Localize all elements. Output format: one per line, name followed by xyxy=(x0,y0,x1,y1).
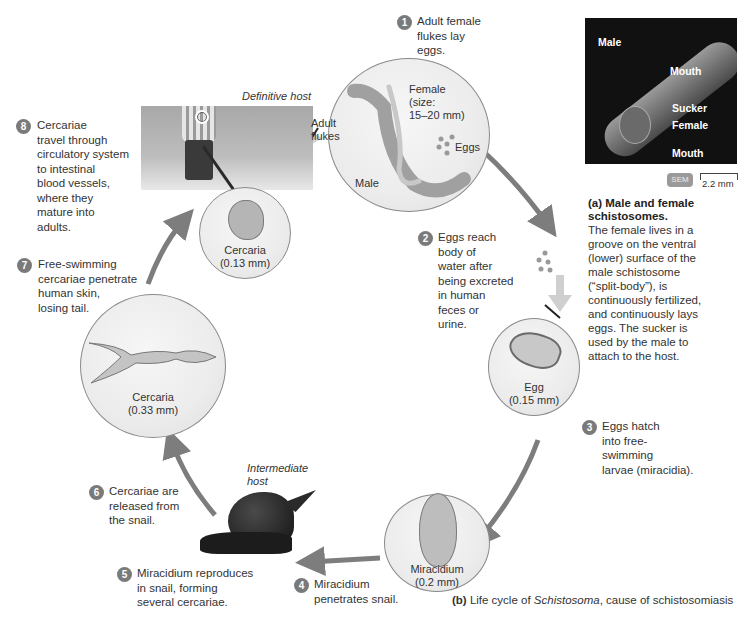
step-5: 5 Miracidium reproduces in snail, formin… xyxy=(117,566,253,610)
sem-badge: SEM xyxy=(667,173,693,187)
step-text: Cercariae are released from the snail. xyxy=(109,484,179,528)
stage-adult-flukes: Adult flukes Female (size: 15–20 mm) Egg… xyxy=(328,58,490,212)
sem-caption-title: (a) Male and female schistosomes. xyxy=(588,197,694,223)
step-text: Cercariae travel through circulatory sys… xyxy=(37,118,129,234)
step-text: Free-swimming cercariae penetrate human … xyxy=(38,257,137,315)
female-label: Female (size: 15–20 mm) xyxy=(409,83,465,122)
step-number-badge: 4 xyxy=(294,578,309,593)
step-4: 4 Miracidium penetrates snail. xyxy=(294,577,398,606)
male-label: Male xyxy=(355,177,379,190)
falling-eggs xyxy=(535,250,565,280)
step-text: Miracidium penetrates snail. xyxy=(314,577,398,606)
target-marker-icon xyxy=(195,110,209,124)
step-number-badge: 3 xyxy=(582,420,597,435)
step-number-badge: 6 xyxy=(89,485,104,500)
sucker-shape xyxy=(619,106,651,144)
step-3: 3 Eggs hatch into free- swimming larvae … xyxy=(582,419,693,477)
definitive-host-photo xyxy=(141,106,313,190)
definitive-host-label: Definitive host xyxy=(242,90,311,103)
snail-illustration xyxy=(200,490,320,560)
sem-label-female: Female xyxy=(672,119,708,131)
caption-prefix: (b) xyxy=(452,594,467,606)
stage-miracidium: Miracidium (0.2 mm) xyxy=(384,494,490,592)
step-text: Eggs reach body of water after being exc… xyxy=(438,230,513,332)
sem-label-mouth-bottom: Mouth xyxy=(672,147,704,159)
step-text: Miracidium reproduces in snail, forming … xyxy=(137,566,253,610)
schistosome-male-body xyxy=(597,34,737,164)
egg-illustration xyxy=(505,325,565,375)
step-text: Eggs hatch into free- swimming larvae (m… xyxy=(602,419,693,477)
sem-label-male: Male xyxy=(598,36,621,48)
genus-name: Schistosoma xyxy=(534,594,600,606)
step-number-badge: 5 xyxy=(117,567,132,582)
sem-label-mouth-top: Mouth xyxy=(670,65,702,77)
step-number-badge: 1 xyxy=(397,15,412,30)
adult-flukes-illustration xyxy=(329,59,489,211)
step-6: 6 Cercariae are released from the snail. xyxy=(89,484,179,528)
step-number-badge: 2 xyxy=(418,231,433,246)
sem-micrograph: Male Mouth Sucker Female Mouth xyxy=(585,18,737,164)
step-number-badge: 8 xyxy=(16,119,31,134)
cercaria-small-illustration xyxy=(228,200,264,240)
intermediate-host-label: Intermediate host xyxy=(247,462,308,488)
eggs-label: Eggs xyxy=(455,141,480,154)
step-text: Adult female flukes lay eggs. xyxy=(417,14,481,58)
stage-egg: Egg (0.15 mm) xyxy=(488,318,580,416)
miracidium-illustration xyxy=(419,493,457,567)
stage-cercaria-large: Cercaria (0.33 mm) xyxy=(80,294,226,438)
step-2: 2 Eggs reach body of water after being e… xyxy=(418,230,513,332)
stage-cercaria-small: Cercaria (0.13 mm) xyxy=(199,187,291,279)
sem-label-sucker: Sucker xyxy=(672,102,707,114)
step-7: 7 Free-swimming cercariae penetrate huma… xyxy=(17,257,137,315)
step-number-badge: 7 xyxy=(17,258,32,273)
sem-caption-body: The female lives in a groove on the vent… xyxy=(588,223,701,363)
figure-caption-b: (b) Life cycle of Schistosoma, cause of … xyxy=(452,594,733,606)
person-silhouette xyxy=(179,106,217,186)
scale-bar-label: 2.2 mm xyxy=(702,178,734,189)
step-8: 8 Cercariae travel through circulatory s… xyxy=(16,118,129,234)
step-1: 1 Adult female flukes lay eggs. xyxy=(397,14,481,58)
adult-flukes-label: Adult flukes xyxy=(311,117,340,143)
